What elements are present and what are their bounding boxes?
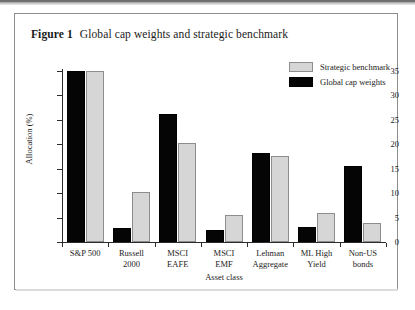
bar: [271, 156, 289, 242]
bar: [298, 227, 316, 242]
y-axis-line: [62, 69, 63, 243]
x-axis-tick: [155, 243, 156, 247]
bar-chart-plot: 05101520253035 Allocation (%) S&P 500Rus…: [15, 14, 399, 291]
legend-swatch: [289, 62, 313, 72]
y-axis-tick: [57, 120, 62, 121]
bar: [159, 114, 177, 242]
bar: [86, 71, 104, 242]
x-axis-tick-label: Non-US bonds: [340, 248, 386, 269]
y-axis-tick-label: 10: [361, 189, 399, 197]
y-axis-tick-label: 5: [361, 214, 399, 222]
y-axis-tick: [57, 144, 62, 145]
x-axis-tick-label: MSCI EAFE: [155, 248, 201, 269]
x-axis-tick-label: S&P 500: [62, 248, 108, 259]
y-axis-tick: [57, 218, 62, 219]
bar: [363, 223, 381, 242]
chart-legend: Strategic benchmarkGlobal cap weights: [289, 60, 390, 90]
legend-item-global_cap_weights: Global cap weights: [289, 75, 390, 88]
y-axis-tick: [57, 71, 62, 72]
y-axis-tick-label: 30: [361, 91, 399, 99]
legend-swatch: [289, 77, 313, 87]
bar: [317, 213, 335, 242]
figure-container: Figure 1Global cap weights and strategic…: [14, 13, 398, 290]
y-axis-tick: [57, 169, 62, 170]
y-axis-title: Allocation (%): [24, 84, 34, 194]
x-axis-tick: [293, 243, 294, 247]
x-axis-tick-label: MSCI EMF: [201, 248, 247, 269]
bar: [225, 215, 243, 242]
x-axis-tick: [340, 243, 341, 247]
page-scan-edge-line: [0, 0, 415, 2]
x-axis-tick: [247, 243, 248, 247]
bar: [67, 71, 85, 242]
x-axis-tick-label: Lehman Aggregate: [247, 248, 293, 269]
x-axis-tick-label: Russell 2000: [108, 248, 154, 269]
x-axis-tick-label: ML High Yield: [293, 248, 339, 269]
bar: [206, 230, 224, 242]
y-axis-tick-label: 25: [361, 116, 399, 124]
y-axis-tick-label: 20: [361, 140, 399, 148]
x-axis-tick: [201, 243, 202, 247]
legend-item-strategic_benchmark: Strategic benchmark: [289, 60, 390, 73]
x-axis-line: [62, 242, 386, 243]
bar: [178, 143, 196, 242]
x-axis-tick: [108, 243, 109, 247]
bar: [344, 166, 362, 242]
y-axis-tick-label: 15: [361, 165, 399, 173]
y-axis-tick: [57, 193, 62, 194]
legend-label: Strategic benchmark: [320, 62, 390, 72]
x-axis-tick: [62, 243, 63, 247]
bar: [132, 192, 150, 242]
x-axis-tick: [386, 243, 387, 247]
bar: [113, 228, 131, 242]
bar: [252, 153, 270, 242]
legend-label: Global cap weights: [320, 77, 386, 87]
y-axis-tick: [57, 95, 62, 96]
x-axis-title: Asset class: [62, 272, 386, 282]
